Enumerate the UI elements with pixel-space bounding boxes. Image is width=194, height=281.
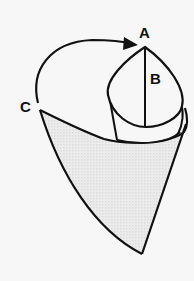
label-b: B: [150, 70, 161, 87]
arrowhead-icon: [123, 37, 138, 50]
label-c: C: [20, 98, 31, 115]
label-a: A: [139, 24, 150, 41]
cone-diagram: A B C: [0, 0, 194, 281]
